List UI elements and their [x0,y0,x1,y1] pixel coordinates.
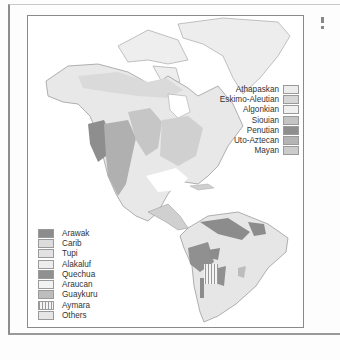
legend-item: Quechua [38,269,98,279]
swatch-others [38,311,54,320]
legend-item: Guaykuru [38,290,98,300]
legend-item: Mayan [220,146,299,156]
legend-item: Penutian [220,125,299,135]
legend-item: Athapaskan [220,84,299,94]
swatch-araucan [38,280,54,289]
swatch-siouian [283,116,299,125]
legend-item: Arawak [38,228,98,238]
swatch-quechua [38,270,54,279]
legend-item: Algonkian [220,105,299,115]
swatch-arawak [38,229,54,238]
swatch-uto-aztecan [283,136,299,145]
swatch-eskimo-aleutian [283,95,299,104]
swatch-tupi [38,249,54,258]
page-edge-marks [321,17,329,97]
greenland [178,18,290,94]
swatch-athapaskan [283,85,299,94]
legend-south-america: Arawak Carib Tupi Alakaluf Quechua Arauc… [38,228,98,321]
legend-north-america: Athapaskan Eskimo-Aleutian Algonkian Sio… [220,84,299,156]
legend-item: Uto-Aztecan [220,135,299,145]
swatch-carib [38,239,54,248]
swatch-aymara [38,301,54,310]
swatch-algonkian [283,105,299,114]
legend-item: Alakaluf [38,259,98,269]
swatch-penutian [283,126,299,135]
legend-item: Others [38,310,98,320]
legend-item: Carib [38,238,98,248]
legend-item: Tupi [38,249,98,259]
legend-item: Araucan [38,279,98,289]
swatch-alakaluf [38,260,54,269]
arctic-islands [118,30,188,64]
legend-item: Eskimo-Aleutian [220,94,299,104]
swatch-mayan [283,146,299,155]
legend-item: Aymara [38,300,98,310]
legend-item: Siouian [220,115,299,125]
swatch-guaykuru [38,290,54,299]
